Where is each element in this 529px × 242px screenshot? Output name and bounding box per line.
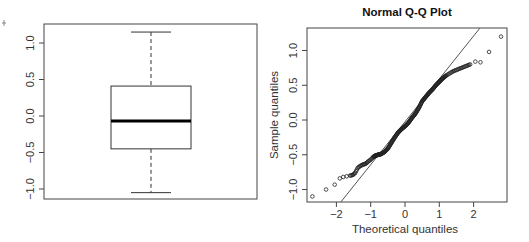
- iqr-box: [111, 86, 191, 149]
- y-tick-label: 1.0: [287, 43, 299, 58]
- data-point: [324, 188, 328, 192]
- data-point: [474, 60, 478, 64]
- x-tick-label: −2: [330, 208, 343, 220]
- y-tick-label: −0.5: [287, 144, 299, 166]
- y-tick-label: −1.0: [24, 178, 36, 200]
- x-tick-label: 2: [471, 208, 477, 220]
- qq-y-axis-label: Sample quantiles: [268, 71, 280, 159]
- y-tick-label: 0.0: [287, 112, 299, 127]
- boxplot-y-axis: −1.0−0.50.00.51.0: [24, 35, 44, 200]
- qq-reference-line: [341, 28, 480, 202]
- data-point: [341, 175, 345, 179]
- y-tick-label: 1.0: [24, 35, 36, 50]
- data-point: [311, 195, 315, 199]
- qq-y-axis: −1.0−0.50.00.51.0: [287, 43, 307, 201]
- boxplot-panel: −1.0−0.50.00.51.0: [24, 24, 257, 200]
- y-tick-label: 0.0: [24, 108, 36, 123]
- x-tick-label: 0: [402, 208, 408, 220]
- x-tick-label: 1: [436, 208, 442, 220]
- chart-canvas: −1.0−0.50.00.51.0 Normal Q-Q Plot −2−101…: [0, 0, 529, 242]
- qq-x-axis-label: Theoretical quantiles: [352, 223, 458, 235]
- qq-plot-title: Normal Q-Q Plot: [362, 6, 452, 18]
- y-tick-label: −1.0: [287, 179, 299, 201]
- data-point: [333, 183, 337, 187]
- data-point: [479, 61, 483, 65]
- data-point: [499, 35, 503, 39]
- data-point: [345, 174, 349, 178]
- y-tick-label: 0.5: [24, 72, 36, 87]
- y-tick-label: 0.5: [287, 78, 299, 93]
- qq-x-axis: −2−1012: [330, 202, 477, 220]
- y-tick-label: −0.5: [24, 142, 36, 164]
- boxplot-body: [111, 32, 191, 193]
- qq-data-points: [311, 35, 503, 198]
- data-point: [487, 50, 491, 54]
- qq-plot-panel: Normal Q-Q Plot −2−1012 −1.0−0.50.00.51.…: [268, 6, 507, 235]
- qq-plot-frame: [307, 28, 507, 202]
- x-tick-label: −1: [364, 208, 377, 220]
- reference-line: [341, 28, 480, 202]
